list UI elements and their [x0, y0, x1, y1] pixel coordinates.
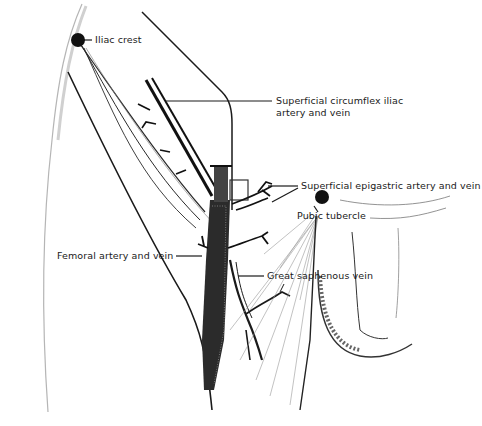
label-superficial-circumflex-iliac: Superficial circumflex iliac artery and …	[276, 95, 466, 119]
inguinal-ligament	[80, 44, 220, 230]
leader-lines	[84, 40, 318, 276]
anatomy-illustration	[0, 0, 482, 426]
label-superficial-circumflex-line2: artery and vein	[276, 107, 350, 118]
label-superficial-circumflex-line1: Superficial circumflex iliac	[276, 95, 403, 106]
superficial-epigastric-vessel	[232, 182, 272, 210]
thigh-outline-left	[44, 4, 82, 412]
label-iliac-crest: Iliac crest	[95, 34, 142, 46]
iliac-crest-marker	[71, 33, 85, 47]
label-femoral-artery-vein: Femoral artery and vein	[57, 250, 173, 262]
pubic-tubercle-marker	[315, 190, 329, 204]
sartorius-edge	[68, 72, 212, 410]
label-great-saphenous-vein: Great saphenous vein	[267, 270, 373, 282]
spermatic-cord	[318, 228, 412, 357]
label-superficial-epigastric: Superficial epigastric artery and vein	[301, 180, 481, 192]
thigh-outline-left-shade	[58, 6, 86, 140]
label-pubic-tubercle: Pubic tubercle	[297, 210, 366, 222]
